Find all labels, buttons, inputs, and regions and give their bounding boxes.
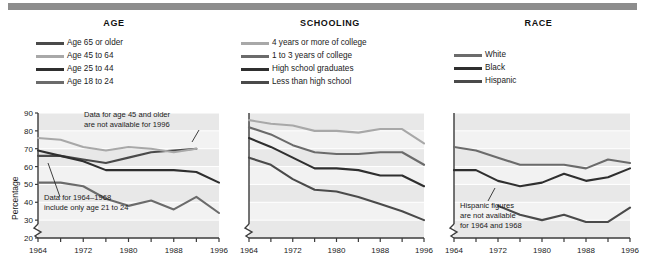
chart-svg-race: 19641972198019881996Hispanic figuresare … — [432, 100, 645, 262]
svg-text:80: 80 — [24, 127, 33, 136]
svg-text:1996: 1996 — [621, 246, 639, 255]
legend-item[interactable]: White — [454, 49, 516, 61]
legend-label: Age 25 to 44 — [67, 64, 113, 74]
svg-text:1964: 1964 — [240, 246, 258, 255]
svg-text:are not available for 1996: are not available for 1996 — [84, 120, 170, 129]
legend-race: White Black Hispanic — [454, 49, 516, 88]
top-rule — [8, 3, 637, 10]
legend-swatch-icon — [36, 81, 64, 84]
svg-text:1988: 1988 — [165, 246, 183, 255]
svg-text:1996: 1996 — [415, 246, 433, 255]
legend-label: Black — [485, 63, 505, 73]
panel-title-schooling: SCHOOLING — [224, 18, 436, 28]
legend-item[interactable]: Black — [454, 62, 516, 74]
svg-text:for 1964 and 1968: for 1964 and 1968 — [460, 221, 522, 230]
legend-item[interactable]: Less than high school — [241, 76, 367, 88]
legend-swatch-icon — [454, 54, 482, 57]
svg-text:1964: 1964 — [445, 246, 463, 255]
svg-text:Data for 1964–1968: Data for 1964–1968 — [44, 193, 111, 202]
svg-text:1972: 1972 — [489, 246, 507, 255]
svg-text:1988: 1988 — [371, 246, 389, 255]
legend-swatch-icon — [241, 55, 269, 58]
legend-item[interactable]: High school graduates — [241, 63, 367, 75]
svg-text:Hispanic figures: Hispanic figures — [460, 201, 514, 210]
svg-text:30: 30 — [24, 216, 33, 225]
legend-label: Hispanic — [485, 76, 516, 86]
legend-label: Age 45 to 64 — [67, 51, 113, 61]
legend-item[interactable]: Hispanic — [454, 75, 516, 87]
plot-area-schooling: 19641972198019881996 — [224, 100, 436, 262]
legend-label: 4 years or more of college — [272, 38, 367, 48]
legend-label: White — [485, 50, 506, 60]
panel-title-race: RACE — [432, 18, 645, 28]
legend-item[interactable]: Age 25 to 44 — [36, 63, 123, 75]
legend-swatch-icon — [36, 42, 64, 45]
legend-swatch-icon — [454, 67, 482, 70]
legend-item[interactable]: 4 years or more of college — [241, 37, 367, 49]
chart-svg-age: 203040506070809019641972198019881996Data… — [0, 100, 228, 262]
legend-item[interactable]: 1 to 3 years of college — [241, 50, 367, 62]
plot-area-race: 19641972198019881996Hispanic figuresare … — [432, 100, 645, 262]
legend-label: 1 to 3 years of college — [272, 51, 352, 61]
legend-label: Less than high school — [272, 77, 351, 87]
legend-swatch-icon — [241, 81, 269, 84]
svg-text:1980: 1980 — [328, 246, 346, 255]
chart-svg-schooling: 19641972198019881996 — [224, 100, 436, 262]
legend-item[interactable]: Age 65 or older — [36, 37, 123, 49]
svg-text:70: 70 — [24, 145, 33, 154]
panel-age: AGE Age 65 or older Age 45 to 64 Age 25 … — [0, 10, 228, 260]
legend-label: Age 65 or older — [67, 38, 123, 48]
svg-text:1972: 1972 — [284, 246, 302, 255]
svg-text:1980: 1980 — [533, 246, 551, 255]
svg-text:1972: 1972 — [74, 246, 92, 255]
legend-label: High school graduates — [272, 64, 353, 74]
legend-swatch-icon — [36, 68, 64, 71]
panel-title-age: AGE — [0, 18, 228, 28]
svg-text:1988: 1988 — [577, 246, 595, 255]
svg-text:20: 20 — [24, 234, 33, 243]
panel-race: RACE White Black Hispanic 19641972198019… — [432, 10, 645, 260]
svg-text:are not available: are not available — [460, 211, 516, 220]
legend-item[interactable]: Age 18 to 24 — [36, 76, 123, 88]
svg-text:50: 50 — [24, 180, 33, 189]
legend-schooling: 4 years or more of college 1 to 3 years … — [241, 37, 367, 89]
legend-swatch-icon — [241, 68, 269, 71]
svg-text:1980: 1980 — [120, 246, 138, 255]
legend-swatch-icon — [36, 55, 64, 58]
legend-swatch-icon — [241, 42, 269, 45]
legend-item[interactable]: Age 45 to 64 — [36, 50, 123, 62]
panel-schooling: SCHOOLING 4 years or more of college 1 t… — [224, 10, 436, 260]
svg-text:40: 40 — [24, 198, 33, 207]
svg-text:Data for age 45 and older: Data for age 45 and older — [84, 110, 171, 119]
legend-swatch-icon — [454, 80, 482, 83]
svg-text:60: 60 — [24, 163, 33, 172]
figure-root: AGE Age 65 or older Age 45 to 64 Age 25 … — [0, 0, 645, 262]
svg-text:1964: 1964 — [29, 246, 47, 255]
legend-label: Age 18 to 24 — [67, 77, 113, 87]
plot-area-age: 203040506070809019641972198019881996Data… — [0, 100, 228, 262]
svg-text:include only age 21 to 24: include only age 21 to 24 — [44, 203, 128, 212]
legend-age: Age 65 or older Age 45 to 64 Age 25 to 4… — [36, 37, 123, 89]
svg-text:90: 90 — [24, 109, 33, 118]
